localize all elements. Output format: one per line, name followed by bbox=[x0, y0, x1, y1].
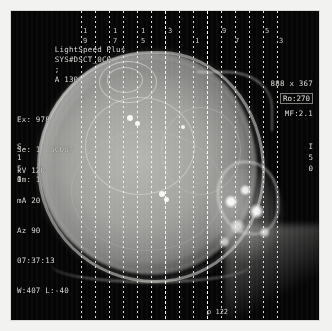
rotation-badge: Ro:270 bbox=[280, 93, 313, 104]
slice-position-line[interactable] bbox=[179, 11, 180, 320]
slice-position-line[interactable] bbox=[193, 11, 194, 320]
header-title-row: LightSpeed Plus SYS#DSCT_0C0 ; A 130 bbox=[17, 35, 125, 95]
slice-number-label: 3 bbox=[168, 27, 172, 36]
slice-position-line[interactable] bbox=[151, 11, 152, 320]
orientation-right-2: 0 bbox=[308, 163, 313, 174]
slice-position-line[interactable] bbox=[165, 11, 166, 320]
slice-number-label: 9 bbox=[222, 27, 226, 36]
series-code-label: A 130 bbox=[55, 75, 79, 84]
slice-position-line[interactable] bbox=[249, 11, 250, 320]
ct-image-viewport[interactable]: 191715319753 LightSpeed Plus SYS#DSCT_0C… bbox=[11, 11, 319, 320]
slice-position-line[interactable] bbox=[277, 11, 278, 320]
acquisition-params-overlay: kV 120 mA 20 Az 90 07:37:13 W:407 L:-40 bbox=[17, 146, 69, 316]
slice-number-label: 1 bbox=[195, 37, 199, 46]
matrix-size-label: 888 x 367 bbox=[271, 79, 313, 89]
angle-label: Az 90 bbox=[17, 226, 69, 236]
orientation-right-0: I bbox=[308, 141, 313, 152]
slice-number-label: 7 bbox=[235, 37, 239, 46]
orientation-right-1: 5 bbox=[308, 152, 313, 163]
slice-number-label: 5 bbox=[141, 37, 145, 46]
exam-number-label: Ex: 978 bbox=[17, 115, 125, 125]
scanner-model-label: LightSpeed Plus bbox=[55, 45, 126, 54]
slice-position-line[interactable] bbox=[263, 11, 264, 320]
ma-label: mA 20 bbox=[17, 196, 69, 206]
slice-number-label: 3 bbox=[279, 37, 283, 46]
window-level-label: W:407 L:-40 bbox=[17, 286, 69, 296]
slice-position-line[interactable] bbox=[235, 11, 236, 320]
protocol-id-label: SYS#DSCT_0C0 bbox=[55, 55, 112, 64]
ct-viewer-window: 191715319753 LightSpeed Plus SYS#DSCT_0C… bbox=[0, 0, 332, 331]
slice-number-label: 1 bbox=[141, 27, 145, 36]
acquisition-time-label: 07:37:13 bbox=[17, 256, 69, 266]
slice-position-line[interactable] bbox=[207, 11, 208, 320]
bottom-position-marker: p 122 bbox=[207, 308, 228, 316]
kv-label: kV 120 bbox=[17, 166, 69, 176]
separator-label: ; bbox=[55, 65, 60, 74]
slice-position-line[interactable] bbox=[221, 11, 222, 320]
orientation-scale-right: I 5 0 bbox=[308, 141, 313, 174]
slice-position-line[interactable] bbox=[137, 11, 138, 320]
magnification-factor-label: MF:2.1 bbox=[271, 109, 313, 119]
slice-number-label: 5 bbox=[265, 27, 269, 36]
